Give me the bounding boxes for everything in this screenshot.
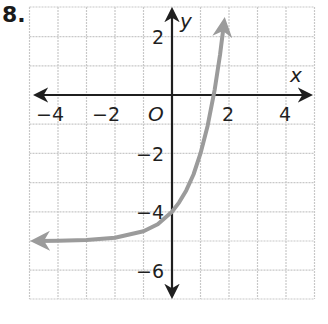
y-tick-label: −4 bbox=[136, 201, 164, 223]
exponential-curve bbox=[36, 23, 224, 241]
coordinate-plane: x y O −4 −2 2 4 2 −2 −4 −6 bbox=[0, 0, 328, 324]
x-tick-label: −2 bbox=[92, 103, 120, 125]
y-tick-label: −2 bbox=[136, 143, 164, 165]
x-tick-label: 4 bbox=[279, 103, 291, 125]
x-axis-label: x bbox=[289, 63, 302, 87]
x-tick-label: 2 bbox=[222, 103, 234, 125]
origin-label: O bbox=[148, 102, 164, 126]
y-tick-label: −6 bbox=[136, 260, 164, 282]
y-axis-label: y bbox=[179, 9, 193, 33]
x-tick-label: −4 bbox=[36, 103, 64, 125]
y-tick-label: 2 bbox=[152, 26, 164, 48]
